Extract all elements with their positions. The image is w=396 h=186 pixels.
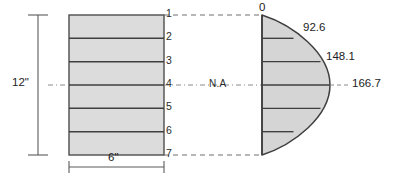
level-label-7: 7 <box>166 148 172 159</box>
stress-value-166-7: 166.7 <box>352 78 381 90</box>
stress-value-92-6: 92.6 <box>303 22 325 34</box>
shear-stress-parabola <box>262 15 330 155</box>
beam-shear-diagram-svg <box>0 0 396 186</box>
level-label-5: 5 <box>166 101 172 112</box>
level-label-6: 6 <box>166 125 172 136</box>
cross-section-rectangle <box>69 15 164 155</box>
neutral-axis-label: N.A <box>209 79 226 89</box>
level-label-3: 3 <box>166 55 172 66</box>
height-dimension-label: 12" <box>12 77 29 89</box>
height-dimension-line <box>28 15 48 155</box>
level-label-2: 2 <box>166 31 172 42</box>
stress-value-0: 0 <box>259 2 265 14</box>
diagram-canvas: 12" 6" N.A 1 2 3 4 5 6 7 0 92.6 148.1 16… <box>0 0 396 186</box>
width-dimension-label: 6" <box>108 152 118 164</box>
stress-value-148-1: 148.1 <box>326 51 355 63</box>
level-label-4: 4 <box>166 78 172 89</box>
level-label-1: 1 <box>166 8 172 19</box>
